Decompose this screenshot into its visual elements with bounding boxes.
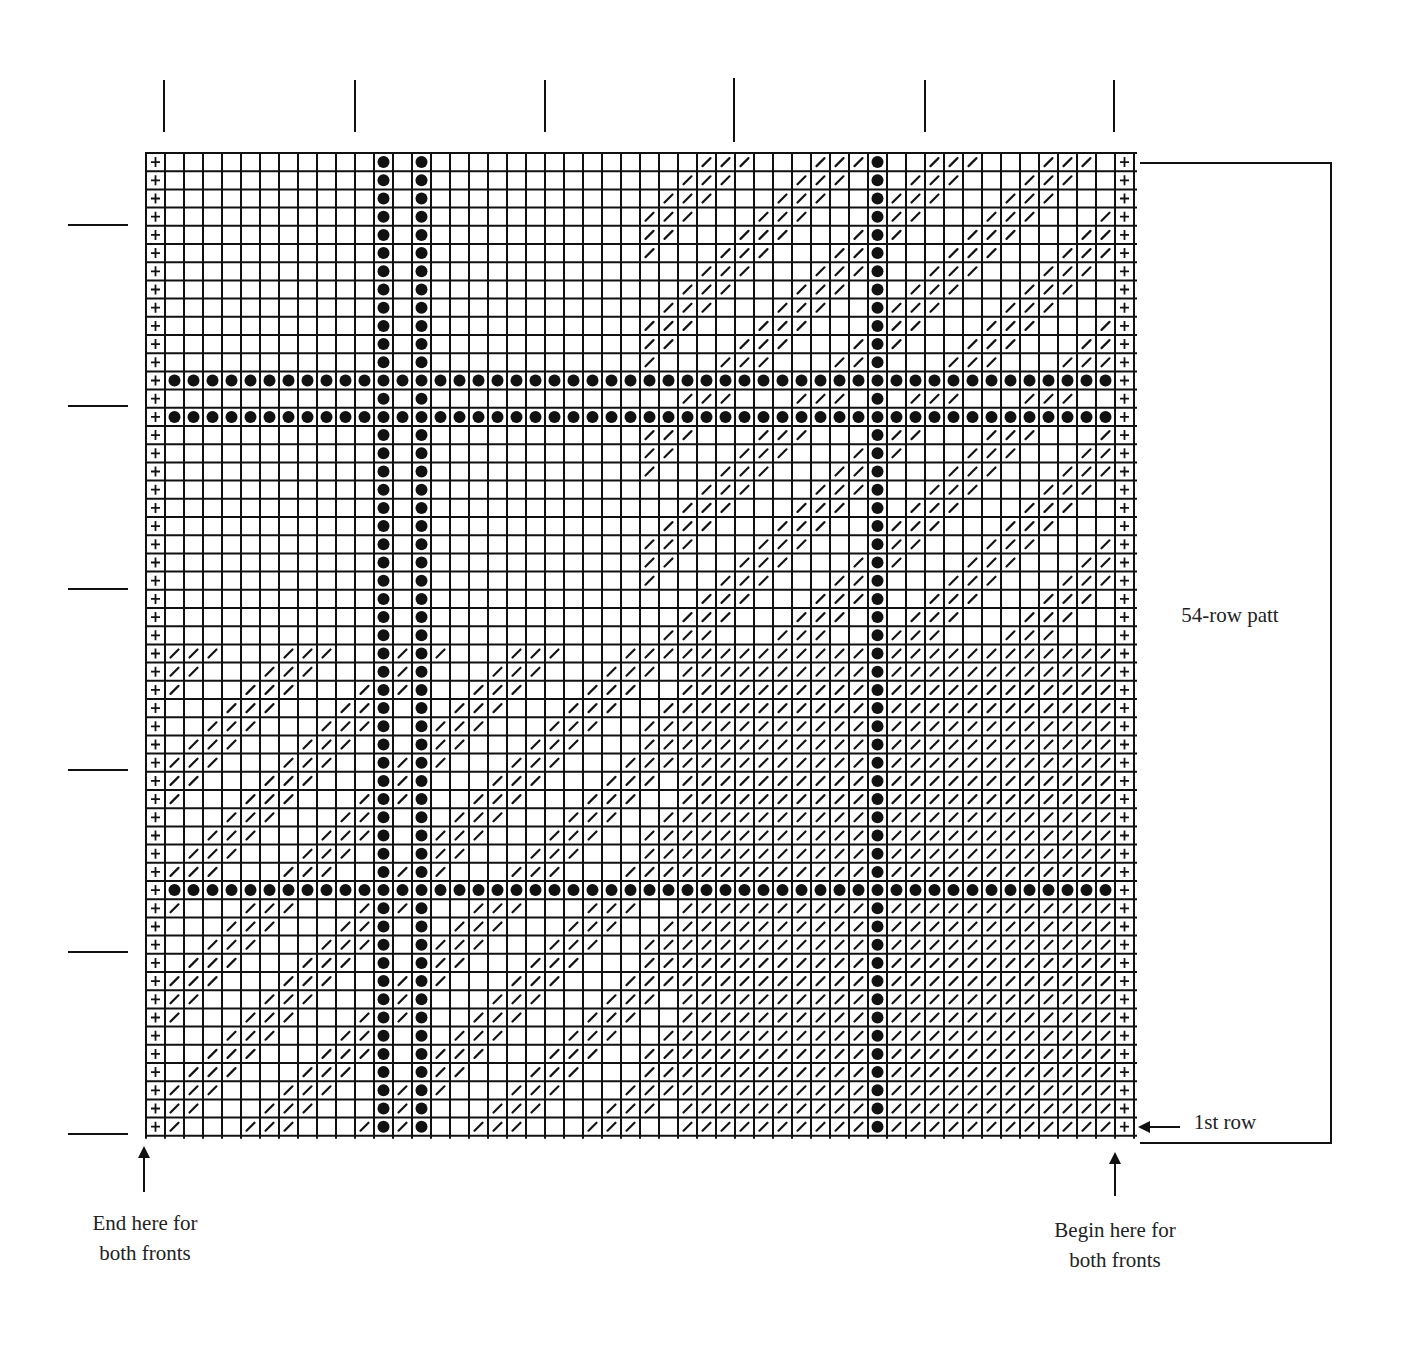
top-marker-tick [1113,80,1115,132]
begin-label-line2: both fronts [1030,1245,1200,1275]
top-marker-tick [544,80,546,132]
begin-arrow-icon [1114,1160,1116,1196]
knitting-chart-grid [145,152,1139,1141]
end-label-line1: End here for [60,1208,230,1238]
first-row-label: 1st row [1185,1107,1265,1137]
top-marker-tick [163,80,165,132]
left-marker-tick [68,769,128,771]
left-marker-tick [68,588,128,590]
left-marker-tick [68,1133,128,1135]
end-label-line2: both fronts [60,1238,230,1268]
repeat-bracket [1140,162,1332,1144]
left-marker-tick [68,224,128,226]
repeat-label: 54-row patt [1165,600,1295,630]
end-arrow-icon [143,1154,145,1192]
left-marker-tick [68,405,128,407]
top-marker-tick [924,80,926,132]
top-marker-tick [354,80,356,132]
top-marker-tick [733,78,735,142]
left-marker-tick [68,951,128,953]
begin-label-line1: Begin here for [1030,1215,1200,1245]
first-row-arrow-icon [1148,1126,1180,1128]
